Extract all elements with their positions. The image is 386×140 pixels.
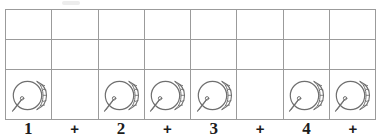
grid-cell-drum-1[interactable] bbox=[6, 70, 52, 120]
drum-icon bbox=[145, 73, 189, 117]
drum-icon bbox=[284, 73, 328, 117]
beat-label-2: + bbox=[51, 116, 97, 140]
grid-cell-drum-2[interactable] bbox=[98, 70, 144, 120]
upper-blank-row bbox=[6, 10, 376, 40]
grid-cell[interactable] bbox=[144, 10, 190, 40]
grid-cell[interactable] bbox=[6, 10, 52, 40]
grid-cell[interactable] bbox=[283, 10, 329, 40]
grid-cell-empty-1[interactable] bbox=[52, 70, 98, 120]
grid-cell-drum-6[interactable] bbox=[329, 70, 375, 120]
rhythm-worksheet: 1 + 2 + 3 + 4 + bbox=[0, 0, 386, 140]
grid-cell[interactable] bbox=[283, 40, 329, 70]
grid-cell[interactable] bbox=[191, 40, 237, 70]
drum-icon-row bbox=[6, 70, 376, 120]
grid-cell-drum-5[interactable] bbox=[283, 70, 329, 120]
grid-cell[interactable] bbox=[52, 10, 98, 40]
grid-cell[interactable] bbox=[98, 40, 144, 70]
grid-cell[interactable] bbox=[144, 40, 190, 70]
rhythm-grid bbox=[5, 9, 376, 120]
beat-label-1: 1 bbox=[5, 116, 51, 140]
grid-cell-drum-4[interactable] bbox=[191, 70, 237, 120]
grid-cell[interactable] bbox=[6, 40, 52, 70]
drum-icon bbox=[99, 73, 143, 117]
beat-label-7: 4 bbox=[283, 116, 329, 140]
grid-cell[interactable] bbox=[52, 40, 98, 70]
grid-cell[interactable] bbox=[237, 10, 283, 40]
grid-cell[interactable] bbox=[329, 10, 375, 40]
grid-cell-empty-2[interactable] bbox=[237, 70, 283, 120]
grid-cell[interactable] bbox=[329, 40, 375, 70]
beat-label-5: 3 bbox=[191, 116, 237, 140]
scan-artifact bbox=[62, 1, 80, 5]
grid-cell[interactable] bbox=[98, 10, 144, 40]
beat-label-3: 2 bbox=[98, 116, 144, 140]
rhythm-grid-container bbox=[5, 9, 376, 116]
drum-icon bbox=[192, 73, 236, 117]
beat-label-6: + bbox=[237, 116, 283, 140]
grid-cell[interactable] bbox=[191, 10, 237, 40]
grid-cell-drum-3[interactable] bbox=[144, 70, 190, 120]
beat-label-4: + bbox=[144, 116, 190, 140]
drum-icon bbox=[330, 73, 374, 117]
drum-icon bbox=[7, 73, 51, 117]
middle-blank-row bbox=[6, 40, 376, 70]
beat-label-8: + bbox=[330, 116, 376, 140]
grid-cell[interactable] bbox=[237, 40, 283, 70]
beat-label-strip: 1 + 2 + 3 + 4 + bbox=[5, 116, 376, 140]
